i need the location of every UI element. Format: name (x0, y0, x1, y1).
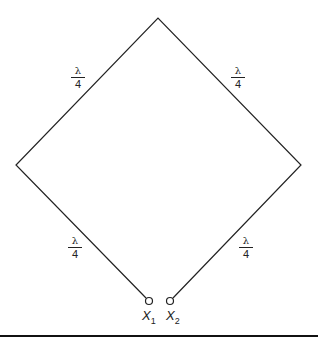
label-numerator: λ (231, 66, 245, 78)
diamond-line-drawing (0, 0, 318, 340)
label-upper-right: λ 4 (231, 66, 245, 90)
terminal-letter: X (142, 308, 151, 323)
terminal-x2-circle (167, 298, 174, 305)
terminal-x2-label: X2 (166, 308, 180, 326)
label-numerator: λ (239, 236, 253, 248)
terminal-subscript: 1 (151, 316, 156, 326)
label-lower-left: λ 4 (68, 236, 82, 260)
label-denominator: 4 (68, 248, 82, 260)
label-denominator: 4 (231, 78, 245, 90)
terminal-x1-label: X1 (142, 308, 156, 326)
diagram-canvas: λ 4 λ 4 λ 4 λ 4 X1 X2 (0, 0, 318, 340)
label-numerator: λ (71, 66, 85, 78)
terminal-subscript: 2 (175, 316, 180, 326)
label-denominator: 4 (239, 248, 253, 260)
diamond-path (16, 18, 301, 298)
label-numerator: λ (68, 236, 82, 248)
label-upper-left: λ 4 (71, 66, 85, 90)
label-lower-right: λ 4 (239, 236, 253, 260)
terminal-letter: X (166, 308, 175, 323)
terminal-x1-circle (146, 298, 153, 305)
label-denominator: 4 (71, 78, 85, 90)
